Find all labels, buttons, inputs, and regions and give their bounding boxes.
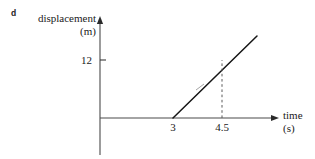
y-axis-arrowhead — [97, 16, 103, 24]
y-axis-group — [97, 16, 106, 155]
data-series-displacement — [173, 36, 257, 118]
x-axis-arrowhead — [271, 115, 279, 121]
plot-area — [0, 0, 315, 159]
displacement-line-segment — [173, 36, 257, 118]
displacement-time-graph-figure: d displacement (m) time (s) 12 3 4.5 — [0, 0, 315, 159]
x-axis-group — [100, 115, 279, 121]
